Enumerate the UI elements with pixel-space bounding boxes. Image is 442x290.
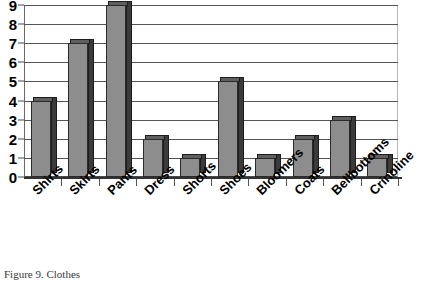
y-axis-tick-label: 4: [9, 93, 17, 108]
y-axis: 0123456789: [0, 0, 24, 177]
y-axis-tick-label: 0: [9, 170, 17, 185]
y-axis-tick-label: 1: [9, 150, 17, 165]
y-axis-tick-label: 3: [9, 112, 17, 127]
bar: [68, 43, 88, 177]
bar-side-face: [88, 39, 94, 173]
y-axis-tick-label: 8: [9, 17, 17, 32]
bar-front-face: [31, 101, 51, 177]
bar-front-face: [218, 81, 238, 177]
x-axis-tick-mark: [286, 179, 287, 186]
bar: [31, 101, 51, 177]
y-axis-tick-label: 9: [9, 0, 17, 13]
bar-front-face: [68, 43, 88, 177]
y-axis-tick-label: 2: [9, 131, 17, 146]
bar: [218, 81, 238, 177]
x-axis-tick-mark: [136, 179, 137, 186]
figure-clothes: 0123456789 ShirtsSkirtsPantsDressShortsS…: [0, 0, 442, 290]
x-axis-tick-mark: [211, 179, 212, 186]
x-axis-tick-mark: [398, 179, 399, 186]
bar-side-face: [126, 1, 132, 173]
bar-side-face: [238, 77, 244, 173]
x-axis-tick-mark: [99, 179, 100, 186]
x-axis-tick-mark: [61, 179, 62, 186]
y-axis-tick-label: 6: [9, 55, 17, 70]
x-axis-tick-mark: [248, 179, 249, 186]
y-axis-tick-label: 5: [9, 74, 17, 89]
bar-series: [24, 5, 398, 177]
x-axis-tick-mark: [361, 179, 362, 186]
y-axis-tick-label: 7: [9, 36, 17, 51]
x-axis-tick-mark: [174, 179, 175, 186]
bar: [106, 5, 126, 177]
bar-front-face: [106, 5, 126, 177]
x-axis-tick-mark: [323, 179, 324, 186]
figure-caption: Figure 9. Clothes: [4, 268, 80, 281]
